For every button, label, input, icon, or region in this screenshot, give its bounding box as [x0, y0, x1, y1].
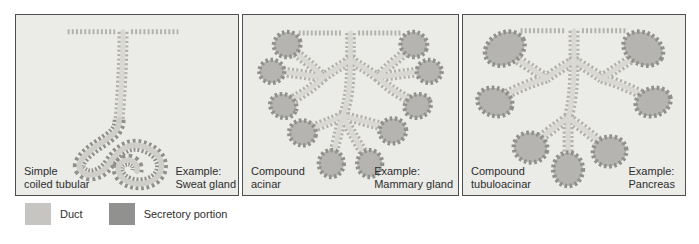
example-name: Pancreas [629, 178, 675, 191]
panel-compound-tubuloacinar: Compound tubuloacinar Example: Pancreas [462, 14, 686, 196]
gland-type-line2: coiled tubular [24, 178, 89, 191]
gland-types-figure: Simple coiled tubular Example: Sweat gla… [0, 0, 699, 244]
secretory-legend-label: Secretory portion [144, 208, 228, 220]
gland-type-line2: acinar [251, 178, 305, 191]
duct-color-swatch [25, 203, 51, 225]
example-label: Example: Mammary gland [374, 165, 453, 191]
duct-structure [119, 32, 123, 120]
example-heading: Example: [374, 165, 453, 178]
legend: Duct Secretory portion [25, 203, 227, 225]
gland-type-label: Simple coiled tubular [24, 165, 89, 191]
example-name: Mammary gland [374, 178, 453, 191]
secretory-color-swatch [109, 203, 135, 225]
secretory-coil [79, 120, 161, 184]
legend-item-secretory-portion: Secretory portion [109, 203, 228, 225]
panel-simple-coiled-tubular: Simple coiled tubular Example: Sweat gla… [15, 14, 239, 196]
example-label: Example: Sweat gland [175, 165, 236, 191]
panel-compound-acinar: Compound acinar Example: Mammary gland [242, 14, 459, 196]
example-name: Sweat gland [175, 178, 236, 191]
example-heading: Example: [175, 165, 236, 178]
gland-type-label: Compound tubuloacinar [471, 165, 531, 191]
example-heading: Example: [629, 165, 675, 178]
gland-type-line1: Compound [471, 165, 531, 178]
gland-type-label: Compound acinar [251, 165, 305, 191]
gland-type-line1: Simple [24, 165, 89, 178]
legend-item-duct: Duct [25, 203, 83, 225]
gland-panels: Simple coiled tubular Example: Sweat gla… [15, 14, 686, 196]
example-label: Example: Pancreas [629, 165, 675, 191]
gland-type-line2: tubuloacinar [471, 178, 531, 191]
duct-legend-label: Duct [60, 208, 83, 220]
gland-type-line1: Compound [251, 165, 305, 178]
